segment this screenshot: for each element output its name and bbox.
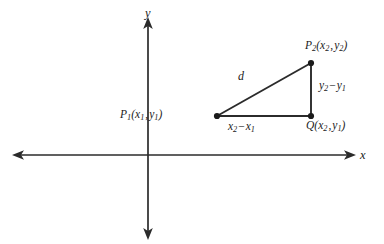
y-axis-label: y <box>145 7 151 20</box>
point-label-p2: P2(x2,y2) <box>305 40 347 54</box>
p1-letter: P <box>120 108 127 120</box>
x-axis-label: x <box>360 149 366 162</box>
p2-letter: P <box>305 39 312 51</box>
hypotenuse-segment <box>217 63 311 116</box>
dx-sub2: 1 <box>251 125 255 134</box>
dy-sub2: 1 <box>342 84 346 93</box>
distance-label-d: d <box>238 70 244 82</box>
distance-formula-figure: y x P2(x2,y2) P1(x1,y1) Q(x2,y1) d y2−y1… <box>0 0 384 244</box>
dx-operator: − <box>237 120 246 132</box>
p2-close-paren: ) <box>343 39 347 51</box>
point-label-q: Q(x2,y1) <box>306 120 345 134</box>
vertex-dot-p2 <box>308 60 314 66</box>
vertex-dot-p1 <box>214 113 220 119</box>
p1-close-paren: ) <box>158 108 162 120</box>
q-close-paren: ) <box>342 119 346 131</box>
dy-operator: − <box>328 79 337 91</box>
horizontal-leg-label: x2−x1 <box>228 121 255 135</box>
vertical-leg-label: y2−y1 <box>319 80 346 94</box>
point-label-p1: P1(x1,y1) <box>120 109 162 123</box>
